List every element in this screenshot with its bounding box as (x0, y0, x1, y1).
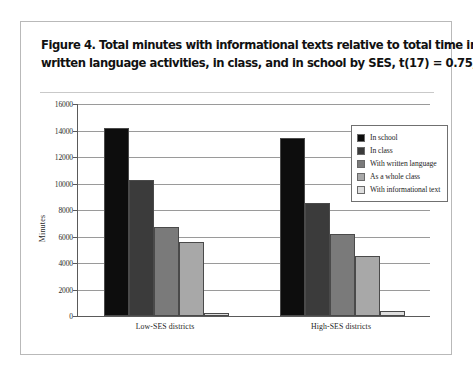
y-axis-tick (73, 131, 78, 132)
bar (355, 256, 380, 316)
y-axis-tick-label: 12000 (27, 153, 73, 162)
y-axis-tick (73, 237, 78, 238)
gridline (78, 104, 430, 105)
chart-legend: In schoolIn classWith written languageAs… (351, 125, 448, 202)
legend-swatch-icon (357, 173, 365, 181)
y-axis-tick-label: 2000 (27, 285, 73, 294)
legend-item: In class (357, 144, 440, 157)
legend-swatch-icon (357, 134, 365, 142)
y-axis-tick-label: 8000 (27, 206, 73, 215)
y-axis-tick (73, 157, 78, 158)
bar (104, 128, 129, 316)
y-axis-tick (73, 210, 78, 211)
legend-item-label: In school (370, 133, 398, 142)
legend-swatch-icon (357, 186, 365, 194)
bar (305, 203, 330, 316)
figure-card: Figure 4. Total minutes with information… (20, 21, 452, 355)
y-axis-tick-label: 14000 (27, 126, 73, 135)
y-axis-tick (73, 290, 78, 291)
bar (280, 138, 305, 316)
chart-container: Minutes 02000400060008000100001200014000… (21, 96, 451, 354)
legend-item-label: With informational text (370, 185, 440, 194)
figure-caption-line-1: Figure 4. Total minutes with information… (41, 36, 435, 54)
y-axis-tick (73, 104, 78, 105)
bar (154, 227, 179, 316)
y-axis-tick (73, 316, 78, 317)
figure-caption: Figure 4. Total minutes with information… (41, 36, 435, 72)
y-axis-tick-label: 10000 (27, 179, 73, 188)
x-axis-group-label: Low-SES districts (77, 322, 253, 331)
bar (179, 242, 204, 316)
x-axis-group-label: High-SES districts (253, 322, 429, 331)
bar (129, 180, 154, 316)
legend-item: As a whole class (357, 170, 440, 183)
y-axis-tick (73, 184, 78, 185)
y-axis-tick-label: 4000 (27, 259, 73, 268)
legend-item-label: In class (370, 146, 393, 155)
bar (330, 234, 355, 316)
legend-item-label: With written language (370, 159, 437, 168)
bar (380, 311, 405, 316)
legend-swatch-icon (357, 160, 365, 168)
y-axis-tick (73, 263, 78, 264)
y-axis-tick-label: 6000 (27, 232, 73, 241)
legend-item: With informational text (357, 183, 440, 196)
legend-item: In school (357, 131, 440, 144)
legend-item: With written language (357, 157, 440, 170)
y-axis-tick-label: 16000 (27, 100, 73, 109)
bar (204, 313, 229, 316)
y-axis-tick-labels: 0200040006000800010000120001400016000 (21, 104, 73, 316)
figure-caption-line-2: written language activities, in class, a… (41, 54, 435, 72)
legend-item-label: As a whole class (370, 172, 420, 181)
y-axis-tick-label: 0 (27, 312, 73, 321)
caption-divider (40, 92, 434, 93)
legend-swatch-icon (357, 147, 365, 155)
